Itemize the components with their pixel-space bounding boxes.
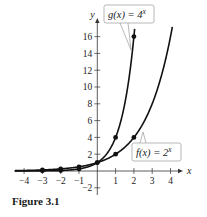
- y-tick-label: 4: [88, 133, 93, 143]
- y-tick-label: 14: [83, 49, 93, 59]
- x-tick-label: 2: [132, 176, 137, 186]
- g-curve: [15, 29, 135, 171]
- y-tick-label: 12: [83, 66, 93, 76]
- x-tick-label: 1: [113, 176, 118, 186]
- g-callout-label: g(x) = 4x: [108, 7, 147, 21]
- x-axis-arrow-icon: [178, 169, 183, 173]
- data-point: [77, 164, 82, 169]
- data-point: [40, 168, 45, 173]
- data-point: [95, 160, 100, 165]
- y-axis-arrow-icon: [95, 18, 99, 23]
- y-tick-label: 16: [83, 32, 93, 42]
- data-point: [113, 135, 118, 140]
- y-tick-label: 8: [88, 99, 93, 109]
- x-tick-label: −3: [37, 176, 47, 186]
- y-tick-label: 6: [88, 116, 93, 126]
- data-point: [132, 135, 137, 140]
- data-point: [58, 167, 63, 172]
- x-tick-label: 3: [150, 176, 155, 186]
- axes: xy−4−3−2−11234−2246810121416: [14, 9, 192, 195]
- data-point: [132, 34, 137, 39]
- f-callout-label: f(x) = 2x: [136, 145, 172, 159]
- data-point: [113, 152, 118, 157]
- figure-caption: Figure 3.1: [12, 195, 59, 207]
- y-tick-label: 10: [83, 82, 93, 92]
- x-tick-label: 4: [168, 176, 173, 186]
- x-axis-label: x: [186, 165, 192, 176]
- x-tick-label: −2: [56, 176, 66, 186]
- y-axis-label: y: [89, 9, 95, 20]
- exponential-chart: xy−4−3−2−11234−2246810121416 g(x) = 4xf(…: [0, 0, 207, 217]
- x-tick-label: −4: [19, 176, 29, 186]
- y-tick-label: 2: [88, 150, 93, 160]
- y-tick-label: −2: [82, 183, 92, 193]
